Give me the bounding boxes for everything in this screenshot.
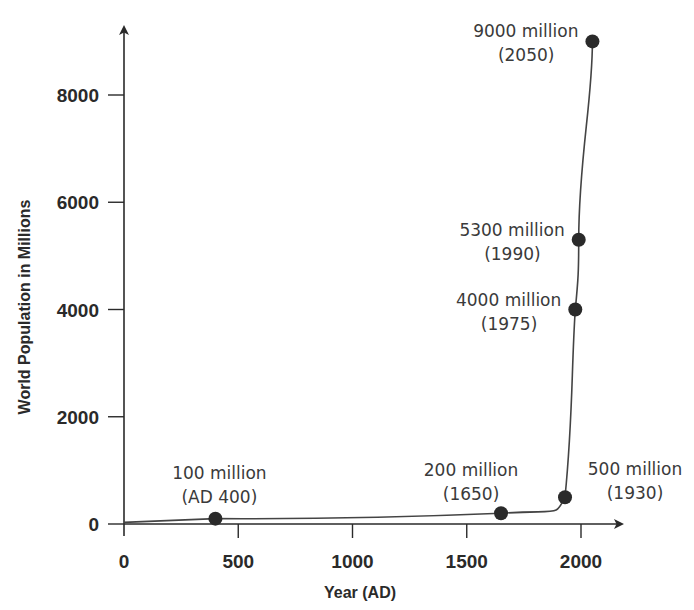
data-label: 500 million(1930) <box>588 459 682 503</box>
curve-group <box>124 41 592 522</box>
points-group <box>208 34 599 525</box>
data-point <box>568 303 582 317</box>
y-tick-label: 6000 <box>57 192 99 213</box>
population-chart: 050010001500200002000400060008000 100 mi… <box>0 0 694 610</box>
population-line <box>124 41 592 522</box>
data-label: 4000 million(1975) <box>456 290 561 334</box>
data-label-year: (1990) <box>484 244 541 264</box>
data-label-year: (1650) <box>443 484 500 504</box>
x-tick-label: 0 <box>119 551 130 572</box>
data-label: 200 million(1650) <box>424 460 518 504</box>
axes <box>124 27 622 536</box>
y-tick-label: 4000 <box>57 300 99 321</box>
y-tick-label: 2000 <box>57 407 99 428</box>
data-point <box>208 512 222 526</box>
data-label-value: 4000 million <box>456 290 561 310</box>
data-label-value: 500 million <box>588 459 682 479</box>
x-tick-label: 1000 <box>331 551 373 572</box>
y-axis-title: World Population in Millions <box>16 200 33 415</box>
data-label: 9000 million(2050) <box>473 21 578 65</box>
x-tick-label: 2000 <box>560 551 602 572</box>
data-point <box>585 34 599 48</box>
data-point <box>572 233 586 247</box>
x-axis-title: Year (AD) <box>324 584 396 601</box>
data-label-value: 100 million <box>172 463 266 483</box>
data-label: 5300 million(1990) <box>459 220 564 264</box>
x-tick-label: 1500 <box>446 551 488 572</box>
data-point <box>558 490 572 504</box>
data-point <box>494 506 508 520</box>
data-label: 100 million(AD 400) <box>172 463 266 507</box>
data-label-value: 200 million <box>424 460 518 480</box>
y-tick-label: 8000 <box>57 85 99 106</box>
data-label-year: (2050) <box>498 45 555 65</box>
labels-group: 100 million(AD 400)200 million(1650)500 … <box>172 21 682 506</box>
data-label-year: (1975) <box>481 314 538 334</box>
data-label-year: (AD 400) <box>181 487 257 507</box>
x-tick-label: 500 <box>222 551 254 572</box>
data-label-year: (1930) <box>607 483 664 503</box>
data-label-value: 5300 million <box>459 220 564 240</box>
y-tick-label: 0 <box>88 514 99 535</box>
data-label-value: 9000 million <box>473 21 578 41</box>
